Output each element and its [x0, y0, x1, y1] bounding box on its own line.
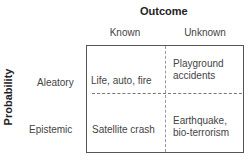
- cell-epistemic-unknown: Earthquake, bio-terrorism: [173, 115, 229, 139]
- column-header-unknown: Unknown: [175, 27, 235, 38]
- cell-line: Earthquake,: [173, 115, 229, 127]
- vertical-divider: [165, 46, 166, 152]
- cell-line: bio-terrorism: [173, 127, 229, 139]
- cell-aleatory-known: Life, auto, fire: [91, 75, 152, 87]
- horizontal-divider: [92, 93, 242, 94]
- row-header-aleatory: Aleatory: [37, 77, 74, 88]
- cell-line: accidents: [173, 70, 224, 82]
- outcome-title: Outcome: [140, 5, 188, 17]
- cell-epistemic-known: Satellite crash: [92, 124, 155, 136]
- row-header-epistemic: Epistemic: [29, 124, 72, 135]
- column-header-known: Known: [100, 27, 150, 38]
- cell-aleatory-unknown: Playground accidents: [173, 58, 224, 82]
- probability-axis-label: Probability: [2, 67, 14, 127]
- cell-line: Playground: [173, 58, 224, 70]
